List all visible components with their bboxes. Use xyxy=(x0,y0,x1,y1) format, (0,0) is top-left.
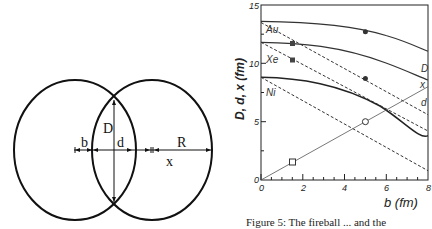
x-axis-label: b (fm) xyxy=(384,195,418,210)
x-tick-6: 6 xyxy=(384,183,389,193)
y-tick-5: 5 xyxy=(254,117,260,127)
marker-xe-d xyxy=(363,76,368,81)
label-d-curve: d xyxy=(421,97,427,108)
x-tick-0: 0 xyxy=(259,183,264,193)
y-tick-10: 10 xyxy=(249,59,259,69)
marker-au-D xyxy=(363,29,368,34)
plot-frame xyxy=(261,5,428,180)
x-tick-2: 2 xyxy=(300,183,306,193)
marker-x-open-square xyxy=(290,159,296,165)
y-axis-label: D, d, x (fm) xyxy=(233,58,247,120)
ni-d-curve xyxy=(261,77,428,170)
label-xe: Xe xyxy=(265,54,279,65)
x-line xyxy=(261,87,428,180)
x-ticks xyxy=(261,174,418,180)
marker-au-square xyxy=(290,41,295,46)
label-ni: Ni xyxy=(266,87,276,98)
label-x-curve: x xyxy=(419,79,426,90)
y-tick-15: 15 xyxy=(249,1,260,11)
label-x: x xyxy=(166,154,173,169)
label-d: d xyxy=(117,135,124,150)
figure-caption: Figure 5: The fireball ... and the xyxy=(246,216,386,228)
xe-D-curve xyxy=(261,42,428,80)
marker-x-open-circle xyxy=(362,119,368,125)
ni-D-curve xyxy=(261,77,428,136)
label-au: Au xyxy=(265,24,279,35)
x-tick-4: 4 xyxy=(342,183,347,193)
au-D-curve xyxy=(261,21,428,51)
label-D: D xyxy=(103,121,113,136)
marker-xe-square xyxy=(290,58,295,63)
overlap-diagram: D b d R x xyxy=(0,0,432,229)
label-R: R xyxy=(177,135,187,150)
x-tick-8: 8 xyxy=(426,183,431,193)
label-b: b xyxy=(81,135,88,150)
xe-d-curve xyxy=(261,42,428,131)
label-D-curve: D xyxy=(421,63,428,74)
chart: 0 5 10 15 0 2 4 6 8 D, d, x (fm) b (fm) xyxy=(233,1,431,210)
